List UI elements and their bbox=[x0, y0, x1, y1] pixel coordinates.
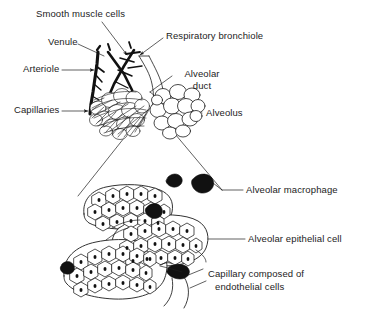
label-venule: Venule bbox=[48, 36, 78, 48]
label-alveolar-epithelial-cell: Alveolar epithelial cell bbox=[248, 233, 342, 245]
alveolar-sac-figure: Smooth muscle cells Venule Respiratory b… bbox=[0, 0, 377, 319]
label-alveolar-duct-line1: Alveolar bbox=[176, 68, 228, 80]
label-respiratory-bronchiole: Respiratory bronchiole bbox=[166, 30, 263, 42]
label-arteriole: Arteriole bbox=[23, 63, 59, 75]
leader-alveolar-macrophage bbox=[213, 183, 243, 190]
label-alveolar-duct-line2: duct bbox=[176, 80, 228, 92]
label-smooth-muscle-cells: Smooth muscle cells bbox=[36, 8, 125, 20]
label-capillary-line2: endothelial cells bbox=[215, 281, 284, 293]
label-alveolus: Alveolus bbox=[206, 107, 243, 119]
label-alveolar-macrophage: Alveolar macrophage bbox=[246, 184, 338, 196]
diagram-artwork bbox=[0, 0, 377, 319]
label-capillaries: Capillaries bbox=[14, 104, 59, 116]
leader-smooth-muscle bbox=[102, 22, 127, 55]
label-capillary-line1: Capillary composed of bbox=[208, 268, 304, 280]
leader-respiratory-bronchiole bbox=[140, 38, 163, 55]
